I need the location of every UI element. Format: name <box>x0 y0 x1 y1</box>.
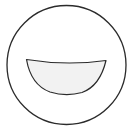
smiley-diagram <box>0 0 134 135</box>
face-svg <box>0 0 134 135</box>
